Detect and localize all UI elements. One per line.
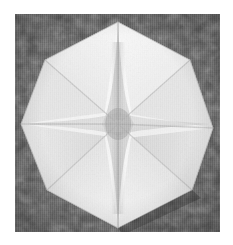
paper-sculpture-illustration (15, 14, 220, 232)
crease-band-lower (111, 132, 125, 214)
photograph-plate (15, 14, 220, 232)
crease-band-upper (111, 42, 125, 120)
figure-page: Folded paper octagonal star form (0, 0, 233, 245)
